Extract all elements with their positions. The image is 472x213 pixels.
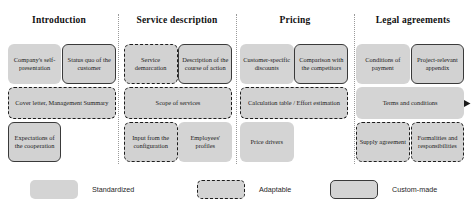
process-box-label: Formalities and responsibilities [414, 134, 462, 151]
process-box-price-drivers[interactable]: Price drivers [240, 122, 294, 162]
process-box-label: Cover letter, Management Summary [11, 99, 113, 107]
process-box-label: Status quo of the customer [65, 56, 113, 73]
process-box-scope-of-services[interactable]: Scope of services [124, 87, 232, 119]
legend-swatch-adaptable [197, 180, 245, 199]
process-box-label: Customer-specific discounts [242, 56, 292, 73]
diagram-canvas: IntroductionService descriptionPricingLe… [0, 0, 472, 213]
process-box-supply-agreement[interactable]: Supply agreement [356, 122, 410, 162]
process-box-service-demarcation[interactable]: Service demarcation [124, 44, 178, 84]
legend-swatch-standardized [30, 180, 78, 199]
process-box-label: Description of the course of action [181, 56, 229, 73]
process-box-calculation-table-effort-estimation[interactable]: Calculation table / Effort estimation [240, 87, 348, 119]
column-divider-pricing [354, 14, 355, 164]
process-box-expectations-of-the-cooperation[interactable]: Expectations of the cooperation [8, 122, 62, 162]
process-box-label: Comparison with the competitors [297, 56, 345, 73]
process-box-conditions-of-payment[interactable]: Conditions of payment [356, 44, 410, 84]
process-box-project-relevant-appendix[interactable]: Project-relevant appendix [411, 44, 465, 84]
column-divider-introduction [118, 14, 119, 164]
legend-item-custom-made: Custom-made [330, 180, 437, 199]
process-box-label: Supply agreement [359, 138, 407, 146]
process-box-label: Price drivers [242, 138, 292, 146]
process-box-label: Expectations of the cooperation [11, 134, 59, 151]
process-box-label: Calculation table / Effort estimation [243, 99, 345, 107]
legend-swatch-custom-made [330, 180, 378, 199]
process-box-label: Service demarcation [127, 56, 175, 73]
process-box-label: Terms and conditions [358, 99, 462, 107]
column-header-introduction: Introduction [0, 15, 119, 25]
legend-item-standardized: Standardized [30, 180, 134, 199]
column-header-legal-agreements: Legal agreements [353, 15, 472, 25]
legend-label-standardized: Standardized [92, 185, 134, 194]
process-box-cover-letter-management-summary[interactable]: Cover letter, Management Summary [8, 87, 116, 119]
process-box-companys-self-presentation[interactable]: Company's self-presentation [8, 44, 62, 84]
process-box-employees-profiles[interactable]: Employees' profiles [178, 122, 232, 162]
process-box-label: Conditions of payment [358, 56, 408, 73]
legend-label-adaptable: Adaptable [259, 185, 291, 194]
column-header-pricing: Pricing [235, 15, 355, 25]
process-box-status-quo-of-the-customer[interactable]: Status quo of the customer [62, 44, 116, 84]
legend-item-adaptable: Adaptable [197, 180, 291, 199]
process-box-label: Input from the configuration [127, 134, 175, 151]
process-box-customer-specific-discounts[interactable]: Customer-specific discounts [240, 44, 294, 84]
process-box-formalities-and-responsibilities[interactable]: Formalities and responsibilities [411, 122, 465, 162]
process-box-comparison-with-the-competitors[interactable]: Comparison with the competitors [294, 44, 348, 84]
legend-label-custom-made: Custom-made [392, 185, 437, 194]
column-divider-service-description [236, 14, 237, 164]
process-box-label: Company's self-presentation [10, 56, 60, 73]
column-header-service-description: Service description [117, 15, 237, 25]
process-box-label: Project-relevant appendix [414, 56, 462, 73]
process-box-label: Employees' profiles [180, 134, 230, 151]
process-box-input-from-the-configuration[interactable]: Input from the configuration [124, 122, 178, 162]
process-box-label: Scope of services [127, 99, 229, 107]
process-box-terms-and-conditions[interactable]: Terms and conditions [356, 87, 464, 119]
process-box-description-of-the-course-of-action[interactable]: Description of the course of action [178, 44, 232, 84]
